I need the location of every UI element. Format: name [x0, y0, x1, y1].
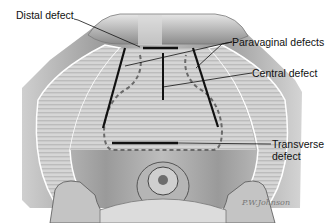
pelvic-floor-illustration — [0, 0, 326, 223]
distal-defect-label: Distal defect — [16, 9, 74, 21]
cervix-os — [158, 175, 168, 185]
central-defect-label: Central defect — [252, 67, 317, 79]
artist-signature: P.W.Johnson — [242, 198, 290, 207]
pelvic-defects-diagram: Distal defect Paravaginal defects Centra… — [0, 0, 326, 223]
transverse-defect-label-line2: defect — [272, 150, 301, 162]
paravaginal-defects-label: Paravaginal defects — [232, 36, 324, 48]
pubic-arch — [88, 14, 248, 44]
pubic-symphysis — [138, 15, 162, 45]
transverse-defect-label-line1: Transverse — [272, 138, 324, 150]
